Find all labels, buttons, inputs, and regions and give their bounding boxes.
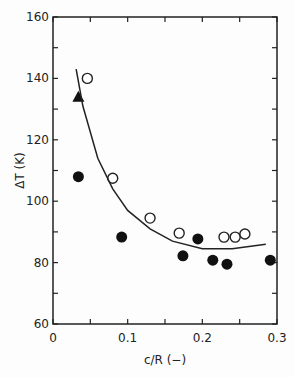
y-tick-label: 120 [26,133,49,147]
filled-circle-point [73,171,84,182]
y-tick-label: 80 [34,256,49,270]
filled-circle-point [207,255,218,266]
open-circle-point [230,232,240,242]
x-tick-label: 0.1 [118,331,137,345]
plot-area: 00.10.20.36080100120140160c/R (−)ΔT (K) [0,0,295,377]
filled-circle-point [177,250,188,261]
chart: 00.10.20.36080100120140160c/R (−)ΔT (K) [0,0,295,377]
open-circle-point [219,232,229,242]
fit-curve [76,69,266,249]
open-circle-point [145,213,155,223]
triangle-point [72,91,84,102]
x-axis-label: c/R (−) [144,353,186,367]
axes-frame [53,17,277,324]
open-circle-point [240,229,250,239]
open-circle-point [174,228,184,238]
x-tick-label: 0.2 [193,331,212,345]
x-tick-label: 0 [49,331,57,345]
filled-circle-point [116,232,127,243]
x-tick-label: 0.3 [267,331,286,345]
y-tick-label: 160 [26,10,49,24]
y-tick-label: 100 [26,194,49,208]
y-axis-label: ΔT (K) [13,152,27,189]
filled-circle-point [265,255,276,266]
y-tick-label: 140 [26,71,49,85]
filled-circle-point [221,259,232,270]
filled-circle-point [192,233,203,244]
y-tick-label: 60 [34,317,49,331]
open-circle-point [82,73,92,83]
